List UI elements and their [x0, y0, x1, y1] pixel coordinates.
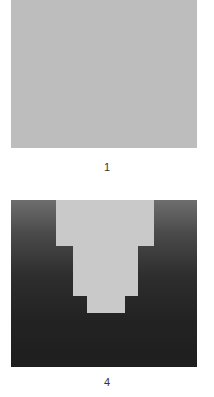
figure-panel-1 — [11, 0, 197, 148]
shape-step-top — [56, 200, 154, 246]
figure-panel-4 — [11, 200, 197, 367]
shape-step-bottom — [87, 296, 125, 313]
figure-label-1: 1 — [0, 161, 214, 173]
shape-step-middle — [73, 246, 138, 296]
figure-label-4: 4 — [0, 376, 214, 388]
